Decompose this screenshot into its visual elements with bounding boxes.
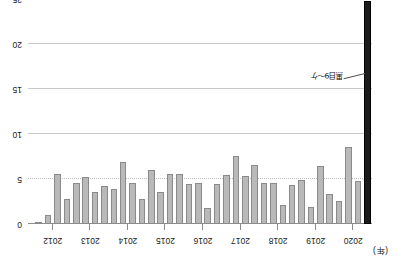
bar-2019Q2[interactable]	[308, 207, 315, 224]
x-axis-tick-2020: 2020	[333, 236, 373, 246]
bar-2016Q2[interactable]	[195, 183, 202, 224]
bar-2014Q4[interactable]	[139, 199, 146, 224]
annotation-leader-line	[344, 73, 366, 79]
bar-2019Q4[interactable]	[326, 194, 333, 224]
bar-2017Q3[interactable]	[242, 176, 249, 224]
x-axis-tickmark-2012	[52, 224, 53, 230]
gridline-15	[28, 88, 372, 89]
x-axis-tickmark-2018	[277, 224, 278, 230]
bar-2014Q3[interactable]	[129, 183, 136, 224]
bar-2018Q4[interactable]	[289, 185, 296, 224]
y-axis-tick-5: 5	[17, 175, 22, 185]
x-axis-tick-2018: 2018	[258, 236, 298, 246]
x-axis-tick-2012: 2012	[33, 236, 73, 246]
x-axis-tickmark-2020	[352, 224, 353, 230]
bar-2017Q1[interactable]	[223, 175, 230, 224]
bar-2015Q4[interactable]	[176, 174, 183, 224]
bar-2012Q3[interactable]	[54, 174, 61, 224]
bar-2017Q2[interactable]	[233, 156, 240, 224]
gridline-10	[28, 133, 372, 134]
bar-2016Q4[interactable]	[214, 184, 221, 224]
bar-2013Q4[interactable]	[101, 186, 108, 224]
bar-2012Q4[interactable]	[64, 199, 71, 224]
bar-2019Q3[interactable]	[317, 166, 324, 224]
bar-2020Q1[interactable]	[336, 201, 343, 224]
x-axis-tickmark-2017	[240, 224, 241, 230]
bar-2018Q3[interactable]	[280, 205, 287, 224]
bar-2016Q3[interactable]	[204, 208, 211, 224]
bar-2013Q1[interactable]	[73, 183, 80, 224]
y-axis-tick-0: 0	[17, 220, 22, 230]
x-axis-tick-2017: 2017	[221, 236, 261, 246]
x-axis-tickmark-2016	[202, 224, 203, 230]
bar-2014Q1[interactable]	[111, 189, 118, 224]
bar-2020Q3[interactable]	[355, 181, 362, 224]
bar-2019Q1[interactable]	[298, 180, 305, 224]
y-axis-tick-15: 15	[13, 85, 22, 95]
bar-2015Q2[interactable]	[157, 192, 164, 224]
bar-2012Q2[interactable]	[45, 215, 52, 224]
bar-2016Q1[interactable]	[186, 184, 193, 224]
y-axis-tick-10: 10	[13, 130, 22, 140]
y-axis-tick-25: 25	[13, 0, 22, 5]
bar-2014Q2[interactable]	[120, 162, 127, 224]
bar-2017Q4[interactable]	[251, 166, 258, 225]
x-axis-tick-2014: 2014	[108, 236, 148, 246]
bar-2015Q3[interactable]	[167, 174, 174, 224]
bar-2020Q4[interactable]	[364, 1, 371, 224]
x-axis-tick-2015: 2015	[145, 236, 185, 246]
bar-2020Q2[interactable]	[345, 148, 352, 225]
y-axis-tick-20: 20	[13, 40, 22, 50]
x-axis-tick-2019: 2019	[296, 236, 336, 246]
axis-unit-label: (年)	[373, 246, 388, 258]
annotation-label: 黒目9〜ケ	[311, 71, 344, 82]
bar-2013Q3[interactable]	[92, 192, 99, 224]
x-axis-tick-2013: 2013	[70, 236, 110, 246]
x-axis-tick-2016: 2016	[183, 236, 223, 246]
x-axis-tickmark-2015	[164, 224, 165, 230]
bar-2015Q1[interactable]	[148, 170, 155, 224]
x-axis-tickmark-2014	[127, 224, 128, 230]
x-axis-tickmark-2019	[315, 224, 316, 230]
gridline-20	[28, 43, 372, 44]
bar-2012Q1[interactable]	[35, 222, 42, 224]
bar-2018Q2[interactable]	[270, 183, 277, 224]
x-axis-tickmark-2013	[89, 224, 90, 230]
bar-2013Q2[interactable]	[82, 177, 89, 224]
bar-2018Q1[interactable]	[261, 183, 268, 224]
